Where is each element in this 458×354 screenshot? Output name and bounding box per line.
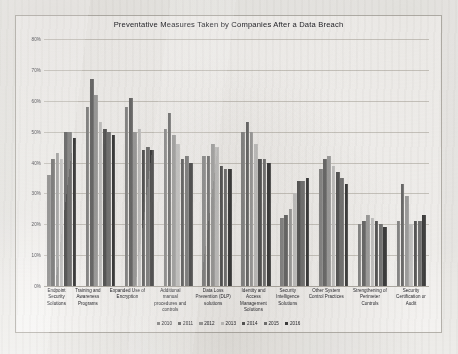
bar [306, 178, 310, 286]
legend-label: 2014 [247, 321, 257, 326]
legend-item-2015[interactable]: 2015 [264, 321, 279, 326]
bar [414, 221, 418, 286]
legend-item-2011[interactable]: 2011 [178, 321, 193, 326]
chart-legend: 2010201120122013201420152016 [16, 321, 441, 326]
bar [280, 218, 284, 286]
bar [250, 132, 254, 286]
legend-label: 2013 [226, 321, 236, 326]
bar [47, 175, 51, 286]
legend-swatch-icon [242, 322, 245, 325]
bar [176, 144, 180, 286]
bar [94, 95, 98, 286]
legend-label: 2016 [290, 321, 300, 326]
bar-group [47, 39, 76, 286]
bar [185, 156, 189, 286]
bar [319, 169, 323, 286]
bar [64, 132, 68, 286]
y-axis-tick: 30% [32, 191, 42, 196]
bar [422, 215, 426, 286]
bar [345, 184, 349, 286]
bar [125, 107, 129, 286]
bar [68, 132, 72, 286]
bar [254, 144, 258, 286]
x-axis-labels: EndpointSecuritySolutionsTraining andAwa… [44, 288, 429, 314]
x-axis-label: EndpointSecuritySolutions [47, 288, 66, 314]
bar-groups [44, 39, 429, 286]
legend-item-2012[interactable]: 2012 [199, 321, 214, 326]
bar-group [319, 39, 348, 286]
bar [366, 215, 370, 286]
x-axis-label: Other SystemControl Practices [309, 288, 344, 314]
bar [103, 129, 107, 286]
legend-swatch-icon [285, 322, 288, 325]
legend-swatch-icon [157, 322, 160, 325]
bar [142, 150, 146, 286]
bar [138, 129, 142, 286]
bar [246, 122, 250, 286]
bar [99, 122, 103, 286]
bar [51, 159, 55, 286]
bar [172, 135, 176, 286]
bar [289, 209, 293, 286]
x-axis-label: SecurityCertification orAudit [396, 288, 426, 314]
bar [90, 79, 94, 286]
bar [323, 159, 327, 286]
bar [375, 221, 379, 286]
bar [86, 107, 90, 286]
bar [215, 147, 219, 286]
legend-swatch-icon [178, 322, 181, 325]
y-axis-tick: 70% [32, 67, 42, 72]
bar [107, 132, 111, 286]
bar [327, 156, 331, 286]
legend-item-2010[interactable]: 2010 [157, 321, 172, 326]
bar-group [202, 39, 231, 286]
bar [241, 132, 245, 286]
bar [332, 166, 336, 286]
bar [340, 178, 344, 286]
bar [379, 224, 383, 286]
bar [207, 156, 211, 286]
bar-group [86, 39, 115, 286]
bar [258, 159, 262, 286]
y-axis-tick: 10% [32, 253, 42, 258]
bar [181, 159, 185, 286]
legend-swatch-icon [199, 322, 202, 325]
bar [168, 113, 172, 286]
bar [409, 224, 413, 286]
bar [189, 163, 193, 287]
bar [267, 163, 271, 287]
bar [202, 156, 206, 286]
bar [60, 159, 64, 286]
legend-item-2016[interactable]: 2016 [285, 321, 300, 326]
plot-area: 80%70%60%50%40%30%20%10%0% [44, 39, 429, 286]
legend-label: 2012 [204, 321, 214, 326]
bar [73, 138, 77, 286]
legend-label: 2010 [162, 321, 172, 326]
y-axis-tick: 0% [34, 284, 41, 289]
gridline-0: 0% [44, 286, 429, 287]
bar [56, 153, 60, 286]
y-axis-tick: 20% [32, 222, 42, 227]
y-axis-tick: 60% [32, 98, 42, 103]
x-axis-label: Identity andAccessManagementSolutions [240, 288, 267, 314]
legend-item-2014[interactable]: 2014 [242, 321, 257, 326]
bar [146, 147, 150, 286]
chart-card: Preventative Measures Taken by Companies… [15, 15, 442, 333]
bar-group [358, 39, 387, 286]
legend-item-2013[interactable]: 2013 [221, 321, 236, 326]
bar [129, 98, 133, 286]
bar-group [280, 39, 309, 286]
bar [371, 218, 375, 286]
bar [228, 169, 232, 286]
y-axis-tick: 80% [32, 37, 42, 42]
bar [284, 215, 288, 286]
bar [133, 132, 137, 286]
bar-group [397, 39, 426, 286]
bar [383, 227, 387, 286]
legend-swatch-icon [221, 322, 224, 325]
x-axis-label: Strengthening ofPerimeterControls [353, 288, 387, 314]
bar [224, 169, 228, 286]
legend-label: 2015 [268, 321, 278, 326]
bar [150, 150, 154, 286]
legend-swatch-icon [264, 322, 267, 325]
